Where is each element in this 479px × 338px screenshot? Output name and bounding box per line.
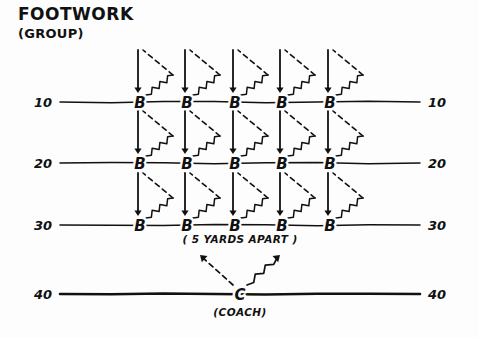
player-marker-20-2: B [181, 155, 192, 173]
player-marker-10-1: B [134, 94, 145, 112]
page-subtitle: (GROUP) [18, 26, 84, 41]
player-marker-10-2: B [181, 94, 192, 112]
yard-label-right-10: 10 [428, 95, 446, 110]
player-marker-20-3: B [229, 155, 240, 173]
yard-label-right-40: 40 [427, 287, 446, 302]
player-marker-20-4: B [276, 155, 287, 173]
player-marker-30-1: B [134, 217, 145, 235]
spacing-note: ( 5 YARDS APART ) [182, 233, 297, 245]
footwork-drill-diagram: FOOTWORK (GROUP) 1010202030304040 BBBBBB… [0, 0, 479, 338]
player-marker-10-5: B [324, 94, 335, 112]
player-marker-10-4: B [276, 94, 287, 112]
page-title: FOOTWORK [18, 4, 134, 24]
coach-marker: C [234, 286, 245, 304]
player-marker-20-5: B [324, 155, 335, 173]
yard-label-left-30: 30 [34, 218, 52, 233]
player-marker-20-1: B [134, 155, 145, 173]
yard-label-left-10: 10 [34, 95, 52, 110]
yard-label-right-20: 20 [428, 156, 446, 171]
yard-label-left-40: 40 [33, 287, 52, 302]
player-marker-30-5: B [324, 217, 335, 235]
yard-label-left-20: 20 [34, 156, 52, 171]
coach-label: (COACH) [213, 306, 266, 318]
yard-label-right-30: 30 [428, 218, 446, 233]
player-marker-10-3: B [229, 94, 240, 112]
